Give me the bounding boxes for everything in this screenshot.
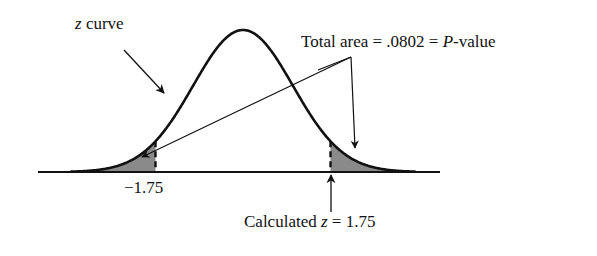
area-arrow-right [351,57,355,148]
calculated-z-label: Calculated z = 1.75 [244,213,375,230]
z-curve [71,30,416,172]
total-area-label-suffix: -value [453,32,495,51]
calculated-z-prefix: Calculated [244,212,321,231]
z-curve-label: z curve [75,15,124,32]
z-curve-label-text: curve [82,14,124,33]
z-curve-label-italic: z [75,14,82,33]
total-area-label-italic: P [443,32,453,51]
calculated-z-suffix: = 1.75 [328,212,376,231]
area-arrow-left [142,57,351,157]
normal-curve-figure: z curve Total area = .0802 = P-value −1.… [0,0,597,256]
z-curve-arrow [124,50,164,93]
calculated-z-italic: z [321,212,328,231]
total-area-label: Total area = .0802 = P-value [301,33,496,50]
left-tick-label: −1.75 [124,179,163,196]
total-area-label-prefix: Total area = .0802 = [301,32,443,51]
area-arrow-connector [318,57,351,70]
